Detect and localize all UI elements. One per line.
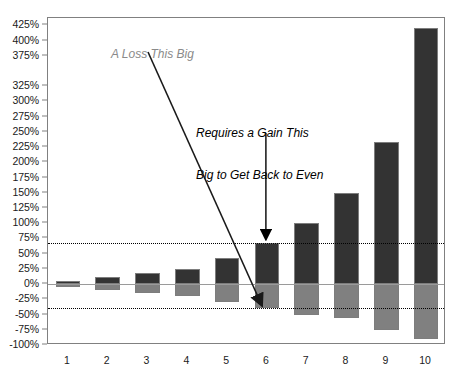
bar-gain-10 bbox=[414, 28, 439, 284]
y-tick-label: 250% bbox=[13, 125, 39, 137]
y-tick-label: 400% bbox=[13, 34, 39, 46]
bar-loss-3 bbox=[135, 284, 160, 293]
bar-loss-5 bbox=[215, 284, 240, 302]
gain-annotation-line2: Big to Get Back to Even bbox=[196, 168, 323, 182]
y-tick-label: -25% bbox=[15, 292, 39, 304]
x-tick-label-9: 9 bbox=[382, 354, 388, 366]
gain-annotation: Requires a Gain This Big to Get Back to … bbox=[196, 98, 323, 210]
bar-gain-4 bbox=[175, 269, 200, 284]
y-tick-label: 225% bbox=[13, 140, 39, 152]
y-tick-label: 300% bbox=[13, 94, 39, 106]
x-tick-label-3: 3 bbox=[144, 354, 150, 366]
y-tick-label: 100% bbox=[13, 216, 39, 228]
bar-gain-2 bbox=[95, 277, 120, 284]
y-tick-label: 275% bbox=[13, 110, 39, 122]
bar-loss-7 bbox=[294, 284, 319, 314]
bar-gain-3 bbox=[135, 273, 160, 284]
bar-loss-8 bbox=[334, 284, 359, 317]
bar-gain-8 bbox=[334, 193, 359, 284]
bar-gain-6 bbox=[255, 243, 280, 284]
x-tick-label-10: 10 bbox=[419, 354, 431, 366]
y-axis: 425%400%375%325%300%275%250%225%200%175%… bbox=[0, 17, 47, 344]
x-axis: 12345678910 bbox=[47, 344, 445, 374]
bar-gain-5 bbox=[215, 258, 240, 284]
y-tick-label: -75% bbox=[15, 323, 39, 335]
y-tick-label: 125% bbox=[13, 201, 39, 213]
bar-loss-9 bbox=[374, 284, 399, 330]
x-tick-label-2: 2 bbox=[104, 354, 110, 366]
gain-reference bbox=[48, 243, 444, 244]
loss-annotation: A Loss This Big bbox=[98, 33, 194, 75]
x-tick-label-1: 1 bbox=[64, 354, 70, 366]
bar-gain-9 bbox=[374, 142, 399, 284]
chart-container: 425%400%375%325%300%275%250%225%200%175%… bbox=[0, 0, 452, 374]
x-tick-label-4: 4 bbox=[183, 354, 189, 366]
y-tick-label: 25% bbox=[18, 262, 39, 274]
bar-loss-10 bbox=[414, 284, 439, 339]
gain-annotation-line1: Requires a Gain This bbox=[196, 126, 323, 140]
y-tick-label: 150% bbox=[13, 186, 39, 198]
bar-loss-4 bbox=[175, 284, 200, 296]
y-tick-label: 75% bbox=[18, 231, 39, 243]
y-tick-label: -50% bbox=[15, 308, 39, 320]
y-tick-label: 425% bbox=[13, 18, 39, 30]
loss-reference bbox=[48, 308, 444, 309]
y-tick-label: 325% bbox=[13, 79, 39, 91]
x-tick-label-7: 7 bbox=[303, 354, 309, 366]
bar-loss-6 bbox=[255, 284, 280, 308]
y-tick-label: 375% bbox=[13, 49, 39, 61]
loss-annotation-text: A Loss This Big bbox=[111, 47, 194, 61]
y-tick-label: 200% bbox=[13, 155, 39, 167]
bar-gain-7 bbox=[294, 223, 319, 284]
y-tick-label: 175% bbox=[13, 171, 39, 183]
x-tick-label-6: 6 bbox=[263, 354, 269, 366]
y-tick-label: -100% bbox=[9, 338, 39, 350]
zero-line bbox=[48, 284, 444, 285]
y-tick-label: 0% bbox=[24, 277, 39, 289]
x-tick-label-5: 5 bbox=[223, 354, 229, 366]
y-tick-label: 50% bbox=[18, 247, 39, 259]
x-tick-label-8: 8 bbox=[343, 354, 349, 366]
